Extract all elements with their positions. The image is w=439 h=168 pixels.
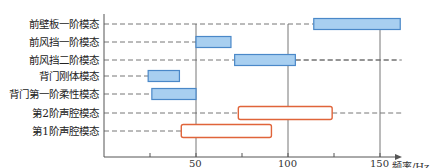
- category-label: 前风挡一阶模态: [0, 36, 99, 48]
- bar-structural: [152, 89, 196, 100]
- bar-acoustic: [238, 107, 332, 120]
- tick-label-150: 150: [370, 158, 389, 168]
- tick-label-50: 50: [189, 158, 202, 168]
- bar-structural: [148, 71, 179, 82]
- category-label: 前壁板一阶模态: [0, 18, 99, 30]
- x-ticks: [150, 153, 380, 157]
- tick-label-100: 100: [278, 158, 297, 168]
- bar-structural: [314, 19, 400, 30]
- bar-acoustic: [181, 125, 271, 138]
- category-label: 背门刚体模态: [0, 70, 99, 82]
- category-label: 第1阶声腔模态: [0, 125, 99, 137]
- bar-structural: [196, 37, 231, 48]
- x-axis-title: 频率/Hz: [392, 158, 429, 168]
- category-label: 前风挡二阶模态: [0, 54, 99, 66]
- bar-structural: [235, 55, 296, 66]
- category-label: 第2阶声腔模态: [0, 107, 99, 119]
- category-label: 背门第一阶柔性模态: [0, 88, 99, 100]
- bars: [148, 19, 400, 138]
